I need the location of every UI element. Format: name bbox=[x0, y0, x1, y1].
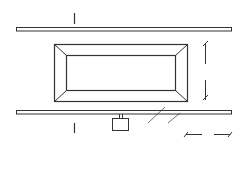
pit-outer-edge bbox=[55, 45, 188, 102]
slope-line bbox=[55, 91, 67, 102]
pit-bottom bbox=[67, 56, 176, 91]
bottom-header-pipe bbox=[17, 111, 232, 115]
slope-line bbox=[55, 45, 67, 56]
well-point-layout-diagram bbox=[0, 0, 249, 181]
pump-station-box bbox=[113, 119, 129, 131]
slope-line bbox=[176, 91, 188, 102]
leader-line-well-point bbox=[148, 107, 165, 123]
slope-line bbox=[176, 45, 188, 56]
top-header-pipe bbox=[17, 28, 232, 32]
